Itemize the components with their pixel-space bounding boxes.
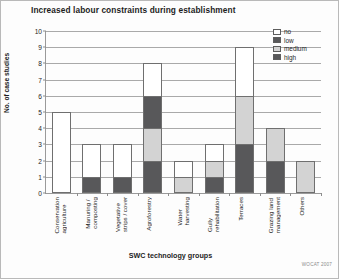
legend-label: no xyxy=(284,28,291,35)
y-axis-tick-label: 0 xyxy=(38,190,42,197)
x-axis-tick-mark xyxy=(107,193,108,196)
bar-stack[interactable] xyxy=(174,161,193,193)
bar-stack[interactable] xyxy=(82,144,101,193)
y-axis-tick-label: 6 xyxy=(38,92,42,99)
chart-legend: nolowmediumhigh xyxy=(273,28,307,61)
bar-segment-no[interactable] xyxy=(52,112,71,193)
legend-swatch-icon xyxy=(273,29,281,35)
legend-swatch-icon xyxy=(273,54,281,60)
credit-text: WOCAT 2007 xyxy=(302,262,332,267)
bar-stack[interactable] xyxy=(266,128,285,193)
x-axis-tick-mark xyxy=(138,193,139,196)
x-axis-tick-label: Others xyxy=(298,197,305,216)
bar-stack[interactable] xyxy=(143,63,162,193)
x-axis-tick-label: Water harvesting xyxy=(176,197,190,226)
x-axis-tick-mark xyxy=(77,193,78,196)
x-axis-tick-label: Manuring / composting xyxy=(84,197,98,229)
x-axis-tick-mark xyxy=(199,193,200,196)
y-axis-tick-label: 4 xyxy=(38,125,42,132)
legend-item-no[interactable]: no xyxy=(273,28,307,35)
legend-item-medium[interactable]: medium xyxy=(273,45,307,52)
bar-segment-high[interactable] xyxy=(205,177,224,193)
bar-segment-no[interactable] xyxy=(174,161,193,177)
x-axis-tick-label: Conservation agriculture xyxy=(53,197,67,233)
y-axis-tick-label: 7 xyxy=(38,76,42,83)
x-axis-tick-label: Grazing land management xyxy=(267,197,281,233)
bar-segment-high[interactable] xyxy=(266,161,285,193)
bar-segment-medium[interactable] xyxy=(266,128,285,160)
y-axis-tick-label: 1 xyxy=(38,173,42,180)
x-axis-tick-label: Vegetative strips / cover xyxy=(114,197,128,232)
y-axis-tick-label: 10 xyxy=(35,28,42,35)
bar-stack[interactable] xyxy=(205,144,224,193)
y-axis-tick-label: 8 xyxy=(38,60,42,67)
legend-label: medium xyxy=(284,45,307,52)
bar-segment-medium[interactable] xyxy=(296,161,315,193)
bar-stack[interactable] xyxy=(52,112,71,193)
y-axis-tick-label: 3 xyxy=(38,141,42,148)
legend-swatch-icon xyxy=(273,46,281,52)
bar-segment-no[interactable] xyxy=(143,63,162,95)
bar-segment-high[interactable] xyxy=(143,161,162,193)
bar-stack[interactable] xyxy=(235,47,254,193)
legend-label: high xyxy=(284,54,296,61)
bar-segment-medium[interactable] xyxy=(205,161,224,177)
y-axis-tick-label: 5 xyxy=(38,109,42,116)
bar-segment-high[interactable] xyxy=(82,177,101,193)
legend-swatch-icon xyxy=(273,37,281,43)
x-axis-tick-label: Terraces xyxy=(237,197,244,221)
bar-segment-high[interactable] xyxy=(235,144,254,193)
bar-segment-no[interactable] xyxy=(205,144,224,160)
x-axis-tick-mark xyxy=(321,193,322,196)
y-axis-tick-label: 2 xyxy=(38,157,42,164)
bar-segment-no[interactable] xyxy=(82,144,101,176)
bar-segment-medium[interactable] xyxy=(143,128,162,160)
y-axis-title: No. of case studies xyxy=(3,53,10,113)
x-axis-tick-label: Gully rehabilitation xyxy=(206,197,220,232)
x-axis-title: SWC technology groups xyxy=(1,251,339,260)
legend-item-low[interactable]: low xyxy=(273,37,307,44)
bar-segment-no[interactable] xyxy=(113,144,132,176)
legend-label: low xyxy=(284,37,294,44)
bar-stack[interactable] xyxy=(296,161,315,193)
bar-stack[interactable] xyxy=(113,144,132,193)
chart-container: Increased labour constraints during esta… xyxy=(0,0,339,279)
bar-segment-high[interactable] xyxy=(113,177,132,193)
bar-segment-no[interactable] xyxy=(235,47,254,96)
x-axis-tick-mark xyxy=(290,193,291,196)
x-axis-tick-mark xyxy=(260,193,261,196)
y-axis-tick-label: 9 xyxy=(38,44,42,51)
x-axis-tick-mark xyxy=(229,193,230,196)
chart-title: Increased labour constraints during esta… xyxy=(31,5,236,15)
x-axis-tick-mark xyxy=(168,193,169,196)
legend-item-high[interactable]: high xyxy=(273,54,307,61)
x-axis-tick-label: Agroforestry xyxy=(145,197,152,231)
bar-segment-medium[interactable] xyxy=(174,177,193,193)
bar-segment-low[interactable] xyxy=(143,96,162,128)
bar-segment-medium[interactable] xyxy=(235,96,254,145)
